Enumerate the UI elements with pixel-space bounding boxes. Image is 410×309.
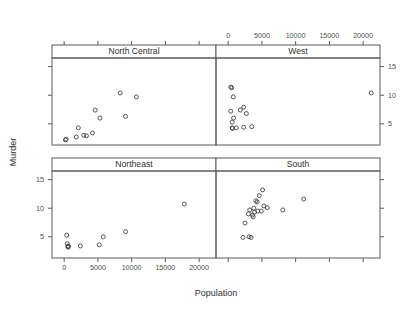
data-point [78,244,82,248]
data-point [124,230,128,234]
y-tick-label: 10 [388,91,396,100]
y-tick-label: 5 [40,232,44,241]
data-point [261,188,265,192]
data-point [124,114,128,118]
strip-label: West [288,46,308,56]
x-tick-label: 5000 [90,263,106,272]
x-ticks [64,258,199,262]
x-tick-label: 10000 [286,31,306,40]
y-tick-label: 5 [388,119,392,128]
panel-north-central: North Central [52,45,216,145]
x-tick-label: 5000 [254,31,270,40]
x-ticks [228,258,363,262]
strip-label: North Central [108,46,159,56]
data-point [243,221,247,225]
data-point [76,126,80,130]
data-point [248,208,252,212]
panel-frame [52,58,216,145]
data-points [241,188,306,240]
data-point [238,108,242,112]
y-tick-label: 15 [36,175,44,184]
strip-label: South [287,159,310,169]
data-point [98,116,102,120]
strip-label: Northeast [115,159,153,169]
data-point [84,134,88,138]
y-ticks [380,180,384,237]
data-point [65,233,69,237]
data-point [93,108,97,112]
data-point [244,112,248,116]
panel-northeast: Northeast [52,158,216,258]
x-tick-label: 20000 [353,31,373,40]
data-point [232,116,236,120]
panel-west: West [216,45,380,145]
data-point [250,125,254,129]
y-ticks [48,67,52,124]
x-tick-label: 15000 [319,31,339,40]
x-tick-label: 0 [62,263,66,272]
x-ticks [64,41,199,45]
y-tick-label: 10 [36,204,44,213]
data-point [246,212,250,216]
x-tick-label: 0 [226,31,230,40]
x-ticks [228,41,363,45]
y-ticks [380,67,384,124]
data-point [234,126,238,130]
data-point [182,202,186,206]
x-tick-label: 15000 [155,263,175,272]
panel-frame [216,171,380,258]
data-point [302,197,306,201]
data-point [90,131,94,135]
data-point [241,235,245,239]
y-ticks [48,180,52,237]
data-point [74,135,78,139]
chart-root: North CentralWestNortheastSouth050001000… [0,0,410,309]
data-point [231,95,235,99]
x-tick-label: 10000 [122,263,142,272]
x-tick-label: 20000 [189,263,209,272]
panel-frame [52,171,216,258]
data-point [281,208,285,212]
x-axis-top-labels: 05000100001500020000 [226,31,373,40]
data-point [118,91,122,95]
data-point [230,120,234,124]
data-point [242,125,246,129]
data-points [65,202,187,249]
data-point [265,206,269,210]
data-point [369,91,373,95]
data-points [229,85,374,130]
data-point [229,109,233,113]
y-axis-right-labels: 15105 [388,62,396,128]
data-point [257,194,261,198]
panel-south: South [216,158,380,258]
data-point [97,243,101,247]
x-axis-bottom-labels: 05000100001500020000 [62,263,209,272]
data-points [64,91,139,142]
data-point [101,235,105,239]
data-point [242,105,246,109]
y-axis-title: Murder [8,138,18,167]
y-tick-label: 15 [388,62,396,71]
x-axis-title: Population [195,288,238,298]
trellis-scatter-plot: North CentralWestNortheastSouth050001000… [0,0,410,309]
y-axis-left-labels: 15105 [36,175,44,241]
data-point [252,206,256,210]
data-point [134,95,138,99]
panel-frame [216,58,380,145]
